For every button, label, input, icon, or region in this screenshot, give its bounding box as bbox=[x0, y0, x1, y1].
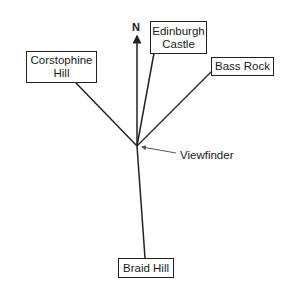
viewfinder-label: Viewfinder bbox=[180, 149, 234, 162]
landmark-label-line: Castle bbox=[162, 38, 195, 51]
viewfinder-pointer bbox=[142, 147, 176, 153]
line-corstophine-hill bbox=[76, 83, 137, 146]
landmark-corstophine-hill: Corstophine Hill bbox=[26, 51, 97, 83]
landmark-edinburgh-castle: Edinburgh Castle bbox=[150, 21, 207, 54]
north-label: N bbox=[132, 22, 140, 33]
line-braid-hill bbox=[137, 146, 145, 258]
landmark-label-line: Bass Rock bbox=[215, 60, 270, 73]
landmark-label-line: Corstophine bbox=[30, 54, 92, 67]
landmark-label-line: Hill bbox=[54, 67, 70, 80]
direction-lines bbox=[0, 0, 292, 291]
landmark-braid-hill: Braid Hill bbox=[118, 258, 174, 278]
landmark-label-line: Braid Hill bbox=[123, 262, 169, 275]
landmark-bass-rock: Bass Rock bbox=[211, 57, 274, 76]
landmark-label-line: Edinburgh bbox=[152, 25, 204, 38]
